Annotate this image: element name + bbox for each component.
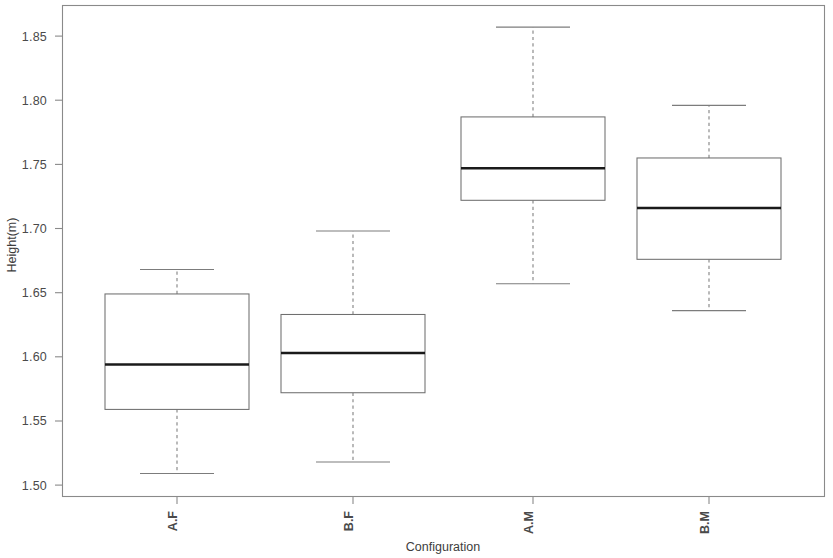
x-tick-label-bf: B.F [342,511,356,532]
y-axis-title: Height(m) [5,218,19,273]
boxplot-figure: 1.50 1.55 1.60 1.65 1.70 1.75 1.80 1.85 … [0,0,833,558]
x-tick-label-bm: B.M [698,511,712,534]
y-tick-label-1.75: 1.75 [22,158,47,172]
box-iqr [461,117,605,200]
x-axis-title: Configuration [406,540,480,554]
y-tick-label-1.70: 1.70 [22,222,47,236]
figure-background [0,0,833,558]
x-tick-label-am: A.M [522,511,536,534]
y-tick-label-1.50: 1.50 [22,479,47,493]
y-tick-label-1.80: 1.80 [22,94,47,108]
boxplot-svg: 1.50 1.55 1.60 1.65 1.70 1.75 1.80 1.85 … [0,0,833,558]
y-tick-label-1.60: 1.60 [22,350,47,364]
y-tick-label-1.55: 1.55 [22,414,47,428]
y-tick-label-1.85: 1.85 [22,30,47,44]
x-tick-label-af: A.F [166,511,180,532]
y-tick-label-1.65: 1.65 [22,286,47,300]
box-iqr [105,294,249,409]
